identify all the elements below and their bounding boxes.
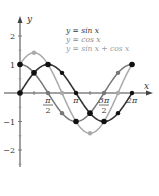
data-point bbox=[116, 71, 120, 75]
legend: y = sin xy = cos xy = sin x + cos x bbox=[65, 26, 130, 53]
chart: yx21−1−2π2π3π22π y = sin xy = cos xy = s… bbox=[0, 0, 159, 196]
highlighted-point bbox=[129, 62, 135, 68]
x-axis-arrow-icon bbox=[146, 91, 153, 96]
x-tick-label-numerator: 3π bbox=[99, 96, 110, 105]
highlighted-point bbox=[17, 62, 23, 68]
legend-item: y = sin x + cos x bbox=[65, 44, 130, 53]
highlighted-point bbox=[101, 119, 107, 125]
x-tick-label-numerator: π bbox=[44, 96, 51, 105]
y-tick-label: 2 bbox=[10, 32, 15, 41]
data-point bbox=[60, 71, 64, 75]
highlighted-point bbox=[17, 90, 23, 96]
data-point bbox=[102, 91, 106, 95]
highlighted-point bbox=[87, 110, 93, 116]
y-tick-label: 1 bbox=[10, 61, 15, 70]
x-tick-label: 2π bbox=[126, 96, 138, 105]
y-axis-arrow-icon bbox=[18, 16, 23, 23]
x-axis-label: x bbox=[144, 81, 149, 91]
x-tick-label-denominator: 2 bbox=[101, 106, 106, 115]
legend-item: y = cos x bbox=[65, 35, 101, 44]
data-point bbox=[116, 111, 120, 115]
x-tick-label-denominator: 2 bbox=[45, 106, 50, 115]
data-point bbox=[74, 91, 78, 95]
y-axis-label: y bbox=[26, 14, 33, 24]
data-point bbox=[32, 51, 36, 55]
data-point bbox=[88, 131, 92, 135]
highlighted-point bbox=[45, 62, 51, 68]
data-point bbox=[130, 91, 134, 95]
data-point bbox=[60, 91, 64, 95]
y-tick-label: −2 bbox=[3, 146, 15, 155]
highlighted-point bbox=[31, 70, 37, 76]
legend-item: y = sin x bbox=[65, 26, 100, 35]
y-tick-label: −1 bbox=[3, 118, 15, 127]
highlighted-point bbox=[73, 119, 79, 125]
data-point bbox=[116, 91, 120, 95]
x-tick-label: π bbox=[72, 96, 79, 105]
data-point bbox=[60, 111, 64, 115]
data-point bbox=[46, 91, 50, 95]
